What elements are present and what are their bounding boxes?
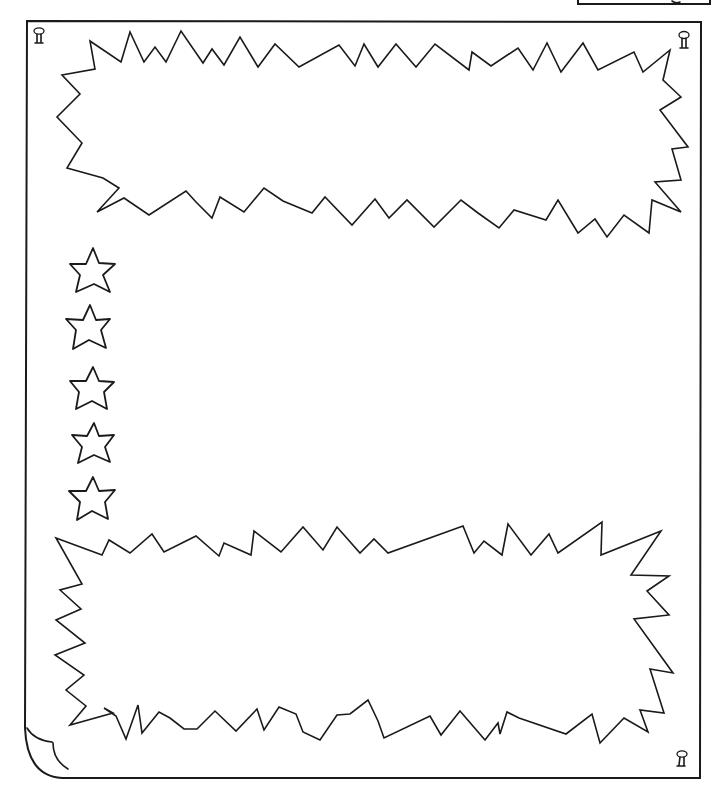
star-icon-3 [70,367,114,409]
star-icon-5 [69,477,115,520]
top-right-partial-box [578,0,710,4]
pin-icon-bottom-right [677,751,687,766]
star-icon-1 [70,248,115,292]
worksheet-page [0,0,721,798]
bottom-burst-shape [55,522,673,743]
star-icon-2 [66,305,110,349]
pin-icon-top-right [679,32,689,49]
star-icon-4 [72,423,114,463]
top-burst-shape [57,31,688,237]
pin-icon-top-left [34,28,44,43]
